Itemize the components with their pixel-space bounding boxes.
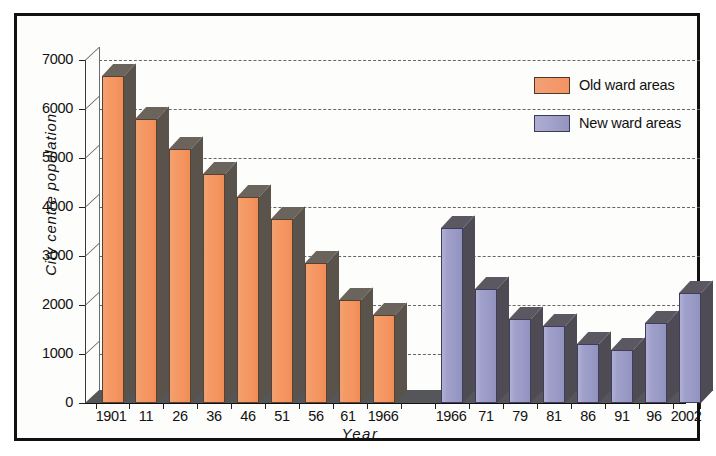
bar-side-face <box>463 215 475 403</box>
floor-left-wedge <box>85 390 99 403</box>
bar-new-81[interactable] <box>543 326 565 403</box>
bar-front-face <box>169 149 191 403</box>
legend-label-old-ward: Old ward areas <box>579 77 675 93</box>
bar-front-face <box>373 315 395 403</box>
bar-front-face <box>271 219 293 403</box>
legend-label-new-ward: New ward areas <box>579 115 681 131</box>
bar-front-face <box>203 174 225 403</box>
legend-item-old-ward[interactable]: Old ward areas <box>534 71 709 99</box>
bar-old-36[interactable] <box>203 174 225 403</box>
bar-front-face <box>645 323 667 403</box>
bar-front-face <box>577 344 599 403</box>
y-tick-label-0: 0 <box>25 394 73 410</box>
bar-side-face <box>667 310 679 403</box>
bar-old-46[interactable] <box>237 197 259 403</box>
legend-swatch-old-ward-icon <box>534 77 570 94</box>
y-tick-1000 <box>79 354 85 355</box>
x-tick-label-2002: 2002 <box>662 408 710 424</box>
plot-area: 7000 6000 5000 4000 3000 2000 1000 0 <box>17 16 703 444</box>
bar-front-face <box>543 326 565 403</box>
y-tick-link-5000 <box>85 145 99 172</box>
chart-frame: 7000 6000 5000 4000 3000 2000 1000 0 <box>14 13 700 441</box>
legend: Old ward areas New ward areas <box>534 71 709 147</box>
bar-side-face <box>225 161 237 403</box>
bar-side-face <box>157 106 169 403</box>
x-axis-title: Year <box>17 425 703 442</box>
bar-new-1966[interactable] <box>441 228 463 403</box>
bar-side-face <box>497 276 509 403</box>
bar-front-face <box>339 300 361 403</box>
bar-new-91[interactable] <box>611 350 633 403</box>
bar-front-face <box>679 293 701 403</box>
bar-side-face <box>531 306 543 403</box>
y-tick-3000 <box>79 256 85 257</box>
bar-front-face <box>475 289 497 403</box>
y-axis-title: City centre population <box>42 60 59 330</box>
y-tick-7000 <box>79 60 85 61</box>
y-axis-back-edge <box>99 47 100 390</box>
y-tick-link-2000 <box>85 292 99 319</box>
y-tick-link-3000 <box>85 243 99 270</box>
bar-old-1966[interactable] <box>373 315 395 403</box>
bar-side-face <box>259 184 271 403</box>
y-tick-2000 <box>79 305 85 306</box>
bar-side-face <box>701 280 713 403</box>
bar-side-face <box>361 287 373 403</box>
bar-side-face <box>395 302 407 403</box>
bar-old-61[interactable] <box>339 300 361 403</box>
bar-front-face <box>102 76 124 403</box>
bar-new-86[interactable] <box>577 344 599 403</box>
bar-new-96[interactable] <box>645 323 667 403</box>
bar-side-face <box>565 313 577 403</box>
legend-item-new-ward[interactable]: New ward areas <box>534 109 709 137</box>
bar-old-11[interactable] <box>135 119 157 403</box>
bar-old-51[interactable] <box>271 219 293 403</box>
y-tick-5000 <box>79 158 85 159</box>
y-tick-link-6000 <box>85 96 99 123</box>
bar-new-71[interactable] <box>475 289 497 403</box>
bar-side-face <box>191 136 203 403</box>
y-tick-link-4000 <box>85 194 99 221</box>
bar-new-2002[interactable] <box>679 293 701 403</box>
bar-front-face <box>237 197 259 403</box>
bar-side-face <box>327 250 339 403</box>
bar-front-face <box>509 319 531 403</box>
bar-front-face <box>441 228 463 403</box>
y-tick-link-7000 <box>85 47 99 74</box>
y-tick-6000 <box>79 109 85 110</box>
bar-front-face <box>135 119 157 403</box>
bar-old-1901[interactable] <box>102 76 124 403</box>
y-tick-4000 <box>79 207 85 208</box>
bar-old-56[interactable] <box>305 263 327 403</box>
legend-swatch-new-ward-icon <box>534 115 570 132</box>
bar-front-face <box>611 350 633 403</box>
bar-front-face <box>305 263 327 403</box>
x-axis-line <box>85 403 686 404</box>
x-tick-label-1966-old: 1966 <box>359 408 407 424</box>
bar-old-26[interactable] <box>169 149 191 403</box>
y-tick-link-1000 <box>85 341 99 368</box>
gridline-7000 <box>99 60 700 61</box>
bar-side-face <box>293 206 305 403</box>
bar-new-79[interactable] <box>509 319 531 403</box>
y-tick-label-1000: 1000 <box>25 345 73 361</box>
